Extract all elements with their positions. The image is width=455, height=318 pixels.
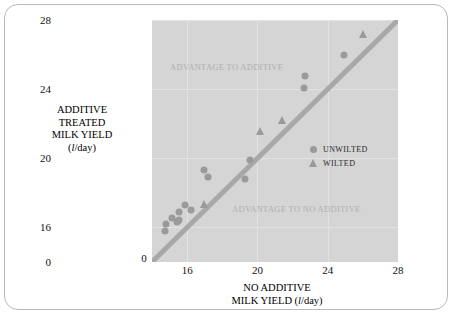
data-point-wilted — [256, 127, 264, 135]
data-point-unwilted — [341, 51, 348, 58]
data-point-unwilted — [163, 220, 170, 227]
data-point-unwilted — [200, 167, 207, 174]
gridline-vertical — [187, 20, 188, 262]
chart-legend: UNWILTEDWILTED — [307, 142, 368, 170]
y-tick-label: 28 — [11, 14, 51, 26]
gridline-horizontal — [152, 89, 398, 90]
y-tick-label: 20 — [11, 152, 51, 164]
data-point-wilted — [359, 30, 367, 38]
data-point-wilted — [278, 116, 286, 124]
x-tick-label: 20 — [237, 264, 277, 276]
y-axis-unit-close: /day) — [74, 142, 96, 153]
data-point-unwilted — [176, 216, 183, 223]
parity-reference-line — [152, 20, 398, 262]
data-point-unwilted — [300, 85, 307, 92]
legend-item-wilted[interactable]: WILTED — [307, 156, 368, 170]
annotation-advantage-to-additive: ADVANTAGE TO ADDITIVE — [170, 62, 283, 72]
y-tick-label: 16 — [11, 221, 51, 233]
x-tick-label: 28 — [378, 264, 418, 276]
x-axis-title-line1: NO ADDITIVE — [182, 282, 372, 295]
y-tick-label: 24 — [11, 83, 51, 95]
x-axis-title-line2: MILK YIELD (l/day) — [182, 295, 372, 308]
data-point-unwilted — [301, 73, 308, 80]
gridline-vertical — [328, 20, 329, 262]
y-axis-title: ADDITIVE TREATED MILK YIELD (l/day) — [28, 104, 136, 154]
y-axis-title-line2: TREATED — [28, 117, 136, 130]
triangle-marker-icon — [307, 159, 319, 167]
circle-marker-icon — [307, 146, 319, 153]
y-axis-title-line1: ADDITIVE — [28, 104, 136, 117]
data-point-unwilted — [176, 208, 183, 215]
legend-item-unwilted[interactable]: UNWILTED — [307, 142, 368, 156]
data-point-wilted — [200, 200, 208, 208]
gridline-horizontal — [152, 20, 398, 21]
x-axis-unit-close: /day) — [301, 295, 323, 306]
data-point-unwilted — [242, 176, 249, 183]
legend-label: WILTED — [323, 159, 355, 168]
data-point-unwilted — [162, 227, 169, 234]
chart-figure: 016202428 016202428 ADDITIVE TREATED MIL… — [0, 0, 455, 318]
y-tick-label: 0 — [11, 256, 51, 268]
data-point-unwilted — [246, 157, 253, 164]
data-point-unwilted — [187, 207, 194, 214]
annotation-advantage-to-no-additive: ADVANTAGE TO NO ADDITIVE — [232, 204, 361, 214]
y-axis-title-line3: MILK YIELD — [28, 129, 136, 142]
x-axis-unit-open: MILK YIELD ( — [231, 295, 298, 306]
legend-label: UNWILTED — [323, 145, 368, 154]
plot-area: ADVANTAGE TO ADDITIVE ADVANTAGE TO NO AD… — [152, 20, 398, 262]
x-axis-title: NO ADDITIVE MILK YIELD (l/day) — [182, 282, 372, 307]
x-tick-label: 16 — [167, 264, 207, 276]
gridline-horizontal — [152, 227, 398, 228]
x-tick-label: 24 — [308, 264, 348, 276]
gridline-vertical — [257, 20, 258, 262]
y-axis-title-line4: (l/day) — [28, 142, 136, 155]
data-point-unwilted — [205, 174, 212, 181]
